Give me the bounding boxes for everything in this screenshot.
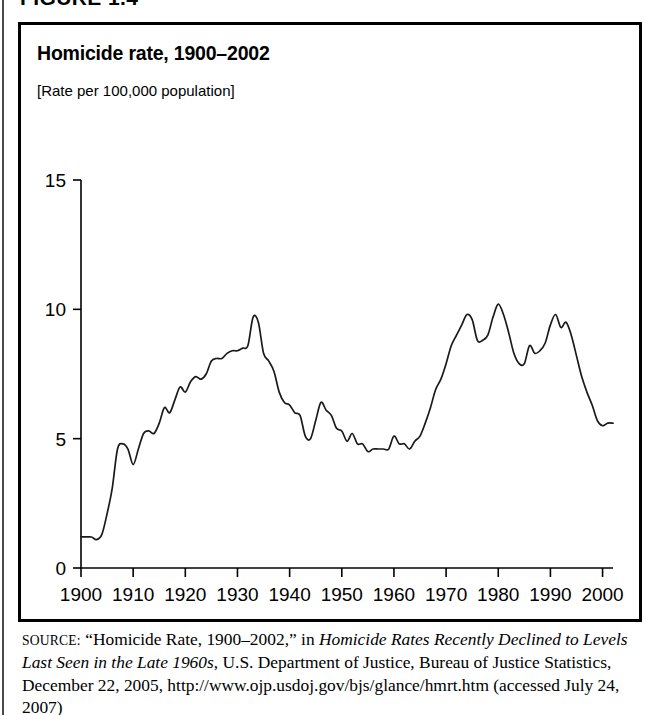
x-tick-label: 1980	[477, 584, 519, 605]
x-tick-label: 1990	[529, 584, 571, 605]
y-axis-ticks	[73, 180, 81, 568]
source-quoted-title: “Homicide Rate, 1900–2002,”	[85, 629, 297, 649]
x-tick-label: 1960	[373, 584, 415, 605]
x-tick-label: 1970	[425, 584, 467, 605]
line-chart: 051015 190019101920193019401950196019701…	[21, 25, 639, 619]
x-tick-label: 1940	[268, 584, 310, 605]
source-note: SOURCE: “Homicide Rate, 1900–2002,” in H…	[22, 628, 634, 715]
page-edge-rule	[2, 0, 4, 715]
homicide-rate-line	[81, 304, 613, 539]
x-tick-label: 1930	[216, 584, 258, 605]
y-tick-label: 0	[55, 558, 66, 579]
x-axis-tick-labels: 1900191019201930194019501960197019801990…	[60, 584, 624, 605]
y-axis-tick-labels: 051015	[45, 170, 66, 579]
source-connector: in	[301, 629, 315, 649]
x-tick-label: 2000	[581, 584, 623, 605]
x-tick-label: 1950	[321, 584, 363, 605]
figure-label: FIGURE 1.4	[20, 0, 138, 10]
x-tick-label: 1920	[164, 584, 206, 605]
x-tick-label: 1910	[112, 584, 154, 605]
x-axis-ticks	[81, 568, 603, 577]
x-tick-label: 1900	[60, 584, 102, 605]
y-tick-label: 5	[55, 429, 66, 450]
figure-box: Homicide rate, 1900–2002 [Rate per 100,0…	[18, 22, 642, 622]
y-tick-label: 15	[45, 170, 66, 191]
source-prefix: SOURCE:	[22, 633, 81, 648]
y-tick-label: 10	[45, 299, 66, 320]
